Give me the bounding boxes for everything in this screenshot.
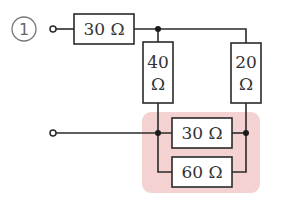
resistor-parallel-upper: 30 Ω <box>172 118 232 148</box>
problem-number: 1 <box>12 17 36 41</box>
resistor-label: 20 <box>235 52 257 72</box>
bottom-terminal <box>50 130 56 136</box>
resistor-left-vertical: 40 Ω <box>143 42 173 103</box>
resistor-right-vertical: 20 Ω <box>231 43 261 103</box>
resistor-unit: Ω <box>239 74 253 94</box>
circuit-diagram: 1 30 Ω 40 Ω 20 Ω 30 Ω <box>0 0 284 200</box>
resistor-label: 60 Ω <box>181 162 222 182</box>
wire <box>134 29 246 43</box>
problem-number-text: 1 <box>19 20 29 39</box>
top-terminal <box>50 26 56 32</box>
resistor-top-series: 30 Ω <box>74 14 134 44</box>
resistor-label: 30 Ω <box>181 123 222 143</box>
junction-dot <box>155 26 161 32</box>
resistor-unit: Ω <box>151 74 165 94</box>
resistor-label: 30 Ω <box>83 19 124 39</box>
resistor-parallel-lower: 60 Ω <box>172 157 232 187</box>
junction-dot <box>155 130 161 136</box>
resistor-label: 40 <box>147 52 169 72</box>
junction-dot <box>243 130 249 136</box>
